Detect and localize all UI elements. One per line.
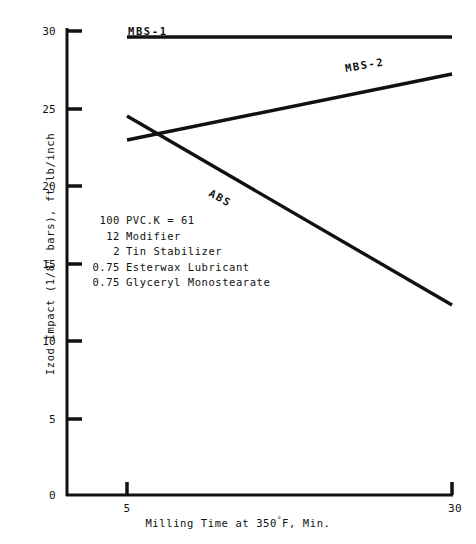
formulation-row: 2 Tin Stabilizer bbox=[82, 244, 270, 260]
y-tick-label-0: 0 bbox=[22, 490, 56, 501]
formulation-row: 0.75 Glyceryl Monostearate bbox=[82, 275, 270, 291]
x-tick-label-5: 5 bbox=[112, 503, 142, 514]
x-axis-label-prefix: Milling Time at 350 bbox=[145, 517, 277, 529]
formulation-ingredient: PVC.K = 61 bbox=[126, 213, 195, 229]
x-tick-label-30: 30 bbox=[440, 503, 470, 514]
y-tick-label-30: 30 bbox=[22, 26, 56, 37]
formulation-ingredient: Tin Stabilizer bbox=[126, 244, 222, 260]
y-tick-label-5: 5 bbox=[22, 414, 56, 425]
formulation-ingredient: Modifier bbox=[126, 229, 181, 245]
formulation-annotation: 100 PVC.K = 61 12 Modifier 2 Tin Stabili… bbox=[82, 213, 270, 291]
formulation-amount: 0.75 bbox=[82, 260, 126, 276]
y-axis-label: Izod Impact (1/8" bars), ft·lb/inch bbox=[44, 119, 56, 389]
y-tick-label-25: 25 bbox=[22, 104, 56, 115]
x-axis-label: Milling Time at 350°F, Min. bbox=[0, 515, 476, 529]
formulation-row: 12 Modifier bbox=[82, 229, 270, 245]
formulation-amount: 2 bbox=[82, 244, 126, 260]
formulation-ingredient: Glyceryl Monostearate bbox=[126, 275, 270, 291]
formulation-row: 100 PVC.K = 61 bbox=[82, 213, 270, 229]
x-axis-label-suffix: F, Min. bbox=[282, 517, 330, 529]
formulation-row: 0.75 Esterwax Lubricant bbox=[82, 260, 270, 276]
formulation-ingredient: Esterwax Lubricant bbox=[126, 260, 250, 276]
formulation-amount: 0.75 bbox=[82, 275, 126, 291]
chart-figure: 30 25 20 15 10 5 0 5 30 Izod Impact (1/8… bbox=[0, 0, 476, 544]
formulation-amount: 12 bbox=[82, 229, 126, 245]
formulation-amount: 100 bbox=[82, 213, 126, 229]
series-label-mbs1: MBS-1 bbox=[128, 25, 168, 37]
series-line-mbs2 bbox=[127, 74, 452, 140]
